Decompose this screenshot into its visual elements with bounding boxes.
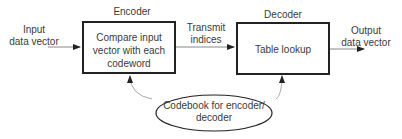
- decoder-text-line1: Table lookup: [238, 43, 328, 56]
- input-label-line2: data vector: [6, 36, 62, 48]
- decoder-title: Decoder: [236, 9, 330, 21]
- encoder-title: Encoder: [84, 6, 180, 18]
- codebook-label-line1: Codebook for encoder/: [156, 100, 272, 112]
- decoder-box: Table lookup: [236, 22, 330, 75]
- decoder-text: Table lookup: [238, 43, 328, 56]
- transmit-label-line2: indices: [180, 34, 232, 46]
- input-label-line1: Input: [6, 24, 62, 36]
- encoder-text-line1: Compare input: [84, 31, 174, 44]
- encoder-text-line3: codeword: [84, 57, 174, 70]
- encoder-box: Compare input vector with each codeword: [82, 21, 176, 74]
- output-label-line2: data vector: [334, 37, 398, 49]
- output-label: Output data vector: [334, 25, 398, 49]
- output-label-line1: Output: [334, 25, 398, 37]
- transmit-label: Transmit indices: [180, 22, 232, 46]
- codebook-label-line2: decoder: [156, 112, 272, 124]
- transmit-label-line1: Transmit: [180, 22, 232, 34]
- input-label: Input data vector: [6, 24, 62, 48]
- codebook-to-encoder-arrow: [130, 76, 152, 99]
- encoder-text-line2: vector with each: [84, 44, 174, 57]
- codebook-label: Codebook for encoder/ decoder: [156, 100, 272, 124]
- encoder-text: Compare input vector with each codeword: [84, 31, 174, 70]
- codebook-to-decoder-arrow: [276, 76, 282, 99]
